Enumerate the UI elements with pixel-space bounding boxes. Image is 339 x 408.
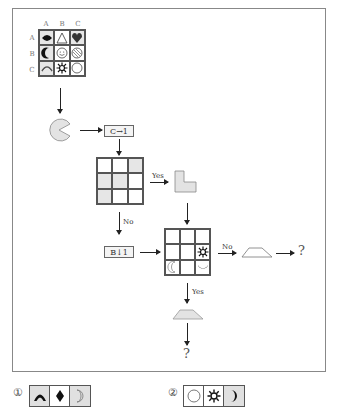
- result-cell: [165, 260, 180, 275]
- result-cell: [180, 260, 195, 275]
- option-2-cell: [224, 386, 244, 406]
- cell-cb: [54, 61, 69, 76]
- striped-circle-icon: [71, 47, 83, 59]
- option-2[interactable]: [183, 385, 245, 407]
- cell-aa: [39, 30, 54, 45]
- diamond-fish-icon: [41, 33, 53, 43]
- cell-cc: [70, 61, 85, 76]
- arrow-down-1: [60, 88, 61, 113]
- heart-icon: [71, 32, 83, 44]
- row-header-a: A: [25, 34, 39, 42]
- crescent-outline-icon: [74, 389, 86, 403]
- decision-cell: [97, 189, 112, 204]
- arrow-right-yes: [150, 182, 168, 183]
- result-cell: [165, 244, 180, 259]
- step-c-to-1: C→1: [104, 125, 134, 137]
- sun-gear-icon: [56, 62, 68, 74]
- cell-ac: [70, 30, 85, 45]
- pacman-icon: [46, 117, 72, 143]
- decision-cell: [112, 189, 127, 204]
- option-2-number: ②: [168, 386, 178, 399]
- decision-cell: [128, 158, 143, 173]
- result-cell: [180, 244, 195, 259]
- arrow-right-no: [218, 253, 236, 254]
- result-cell: [195, 244, 210, 259]
- decision-cell: [112, 173, 127, 188]
- cell-ba: [39, 45, 54, 60]
- sun-gear-icon: [207, 389, 221, 403]
- option-1-cell: [70, 386, 90, 406]
- crescent-moon-icon: [41, 47, 53, 59]
- trapezoid-filled-icon: [172, 309, 204, 321]
- sun-gear-icon: [197, 246, 209, 258]
- arrow-down-2: [119, 139, 120, 155]
- arrow-down-yes: [187, 283, 188, 303]
- arrow-right-1: [80, 130, 102, 131]
- decision-cell: [97, 158, 112, 173]
- no-label-1: No: [123, 218, 133, 226]
- col-header-b: B: [55, 20, 69, 28]
- cell-bc: [70, 45, 85, 60]
- decision-cell: [128, 189, 143, 204]
- result-cell: [195, 229, 210, 244]
- option-2-cell: [184, 386, 204, 406]
- bowl-moon-icon: [197, 261, 209, 273]
- row-header-c: C: [25, 66, 39, 74]
- l-shape-icon: [174, 170, 198, 194]
- diamond-icon: [55, 389, 65, 403]
- arc-filled-icon: [33, 390, 47, 402]
- arrow-down-3: [187, 203, 188, 224]
- question-mark-right: ?: [298, 243, 305, 258]
- arc-icon: [41, 62, 53, 74]
- trapezoid-outline-icon: [241, 247, 273, 259]
- result-cell: [165, 229, 180, 244]
- decision-cell: [112, 158, 127, 173]
- circle-outline-icon: [187, 389, 201, 403]
- option-1[interactable]: [29, 385, 91, 407]
- triangle-outline-icon: [56, 32, 68, 44]
- arrow-right-2: [140, 252, 160, 253]
- option-1-cell: [50, 386, 70, 406]
- yes-label-2: Yes: [192, 288, 204, 296]
- decision-grid: [96, 157, 144, 205]
- arrow-down-no: [119, 212, 120, 234]
- step-b-down-1: B↓1: [104, 246, 134, 258]
- arrow-down-4: [187, 323, 188, 345]
- col-header-a: A: [39, 20, 53, 28]
- result-grid: [164, 228, 211, 276]
- result-cell: [180, 229, 195, 244]
- cell-ca: [39, 61, 54, 76]
- option-1-cell: [30, 386, 50, 406]
- result-cell: [195, 260, 210, 275]
- col-header-c: C: [71, 20, 85, 28]
- option-1-number: ①: [13, 386, 23, 399]
- cell-bb: [54, 45, 69, 60]
- circle-outline-icon: [71, 62, 83, 74]
- smiley-face-icon: [56, 47, 68, 59]
- crescent-moon-icon: [228, 389, 240, 403]
- arrow-right-3: [276, 253, 294, 254]
- option-2-cell: [204, 386, 224, 406]
- question-mark-bottom: ?: [183, 346, 190, 361]
- yes-label-1: Yes: [152, 172, 164, 180]
- row-header-b: B: [25, 50, 39, 58]
- no-label-2: No: [222, 243, 232, 251]
- symbol-grid: [38, 29, 86, 77]
- cell-ab: [54, 30, 69, 45]
- decision-cell: [97, 173, 112, 188]
- decision-cell: [128, 173, 143, 188]
- crescent-outline-icon: [167, 261, 179, 273]
